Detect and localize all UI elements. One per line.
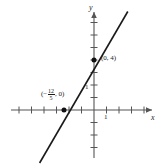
- x-axis-arrowhead: [146, 107, 152, 113]
- fraction-denominator: 5: [48, 95, 55, 101]
- x-intercept-label-prefix: (−: [41, 90, 47, 98]
- x-intercept-label-suffix: , 0): [55, 90, 64, 98]
- x-intercept-fraction: 125: [48, 88, 55, 102]
- y-axis-label: y: [89, 4, 93, 12]
- fraction-numerator: 12: [48, 88, 55, 95]
- point-marker-y-intercept: [92, 58, 97, 63]
- y-intercept-point-label: (0, 4): [101, 55, 116, 62]
- x-intercept-point-label: (−125, 0): [41, 88, 64, 102]
- graph-figure: y x 1 1 (0, 4) (−125, 0): [0, 0, 160, 164]
- x-axis-tick-label-1: 1: [104, 114, 108, 121]
- coordinate-plane: [0, 0, 160, 164]
- point-marker-x-intercept: [62, 108, 67, 113]
- y-axis-arrowhead: [91, 12, 97, 18]
- x-axis-label: x: [151, 114, 155, 122]
- y-axis-tick-label-1: 1: [85, 84, 89, 91]
